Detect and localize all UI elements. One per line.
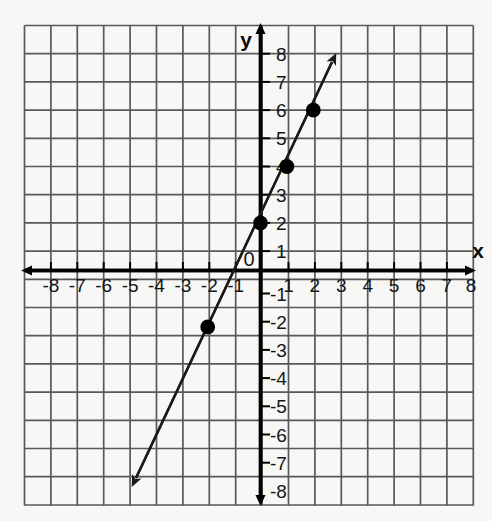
y-tick-label: 5 — [276, 128, 287, 149]
data-point — [200, 320, 215, 335]
coordinate-plane-graph: -8 -7 -6 -5 -4 -3 -2 -1 1 2 3 4 5 6 7 8 … — [0, 0, 492, 521]
x-tick-label: 2 — [310, 275, 321, 296]
y-tick-label: -5 — [270, 396, 287, 417]
y-tick-label: -3 — [270, 340, 287, 361]
y-axis-label: y — [240, 28, 252, 51]
x-axis-label: x — [472, 239, 484, 262]
x-tick-label: -2 — [201, 275, 218, 296]
y-tick-label: -4 — [270, 368, 287, 389]
graph-canvas: -8 -7 -6 -5 -4 -3 -2 -1 1 2 3 4 5 6 7 8 … — [0, 0, 492, 521]
y-tick-label: 2 — [276, 213, 287, 234]
x-tick-label: -4 — [148, 275, 165, 296]
x-tick-label: -6 — [95, 275, 112, 296]
x-tick-label: -7 — [69, 275, 86, 296]
y-tick-label: -6 — [270, 425, 287, 446]
x-tick-label: 6 — [415, 275, 426, 296]
x-tick-label: -8 — [42, 275, 59, 296]
x-tick-label: 3 — [336, 275, 347, 296]
y-tick-label: 3 — [276, 185, 287, 206]
y-tick-label: -1 — [270, 284, 287, 305]
x-tick-label: 4 — [362, 275, 373, 296]
data-point — [253, 216, 268, 231]
x-tick-label: 7 — [442, 275, 453, 296]
origin-label: 0 — [243, 248, 254, 270]
x-tick-label: -5 — [122, 275, 139, 296]
y-tick-label: 8 — [276, 44, 287, 65]
y-tick-label: -7 — [270, 453, 287, 474]
data-point — [280, 159, 295, 174]
y-tick-label: 1 — [276, 241, 287, 262]
y-tick-label: -2 — [270, 312, 287, 333]
y-tick-label: 7 — [276, 72, 287, 93]
y-tick-label: -8 — [270, 481, 287, 502]
y-tick-label: 6 — [276, 100, 287, 121]
x-tick-label: 8 — [466, 275, 477, 296]
x-tick-label: -3 — [174, 275, 191, 296]
data-point — [306, 103, 321, 118]
x-tick-label: 5 — [389, 275, 400, 296]
